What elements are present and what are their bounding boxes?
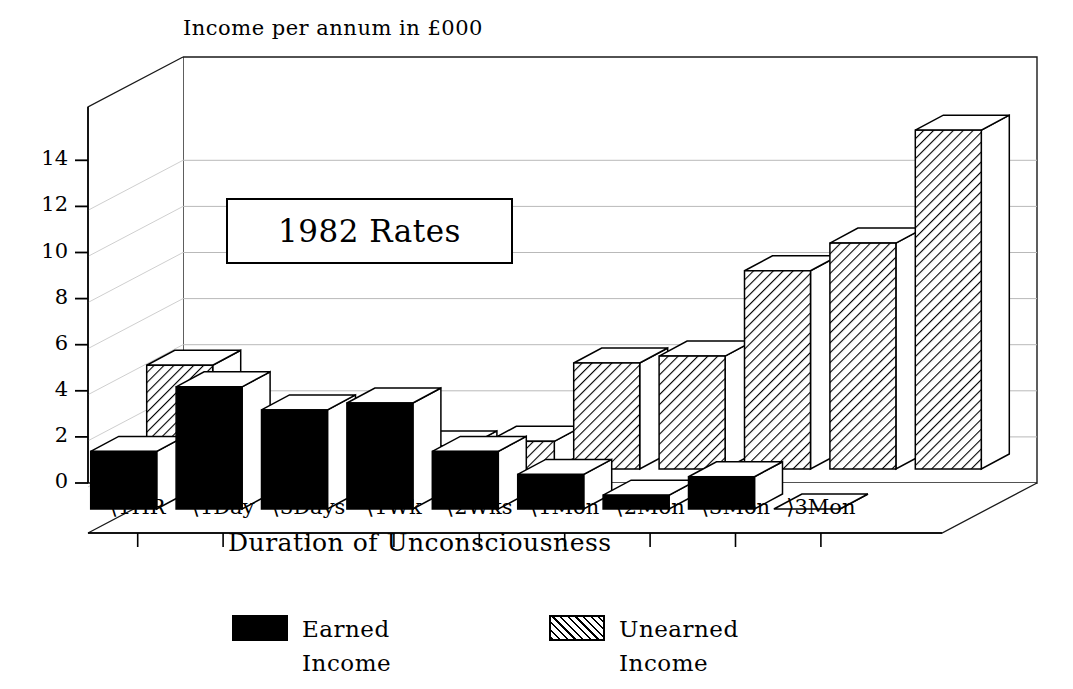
x-axis-tick-label: ⟩3Mon <box>765 495 877 519</box>
chart-plot-area <box>0 0 1073 689</box>
bar-earned-income <box>347 388 441 509</box>
legend-swatch-earned-income <box>232 615 288 641</box>
annotation-label: 1982 Rates <box>228 200 511 262</box>
chart-figure: Income per annum in £000 1982 Rates Dura… <box>0 0 1073 689</box>
y-axis-tick-label: 10 <box>26 239 68 263</box>
legend-label-earned-income: Earned Income <box>302 612 391 680</box>
bar-earned-income <box>262 395 356 509</box>
y-axis-tick-label: 8 <box>26 285 68 309</box>
y-axis-tick-label: 6 <box>26 331 68 355</box>
annotation-box: 1982 Rates <box>226 198 513 264</box>
y-axis-tick-label: 4 <box>26 377 68 401</box>
y-axis-tick-label: 14 <box>26 146 68 170</box>
y-axis-tick-label: 12 <box>26 192 68 216</box>
legend-label-unearned-income: Unearned Income <box>619 612 739 680</box>
x-axis-title: Duration of Unconsciousness <box>228 528 612 557</box>
bar-unearned-income <box>915 115 1009 469</box>
legend-swatch-unearned-income <box>549 615 605 641</box>
y-axis-tick-label: 2 <box>26 423 68 447</box>
bar-unearned-income <box>745 256 839 469</box>
bar-unearned-income <box>574 348 668 469</box>
bar-earned-income <box>176 372 270 509</box>
chart-legend: Earned Income Unearned Income <box>232 612 872 652</box>
y-axis-tick-label: 0 <box>26 469 68 493</box>
bar-unearned-income <box>659 341 753 469</box>
bar-unearned-income <box>830 228 924 469</box>
